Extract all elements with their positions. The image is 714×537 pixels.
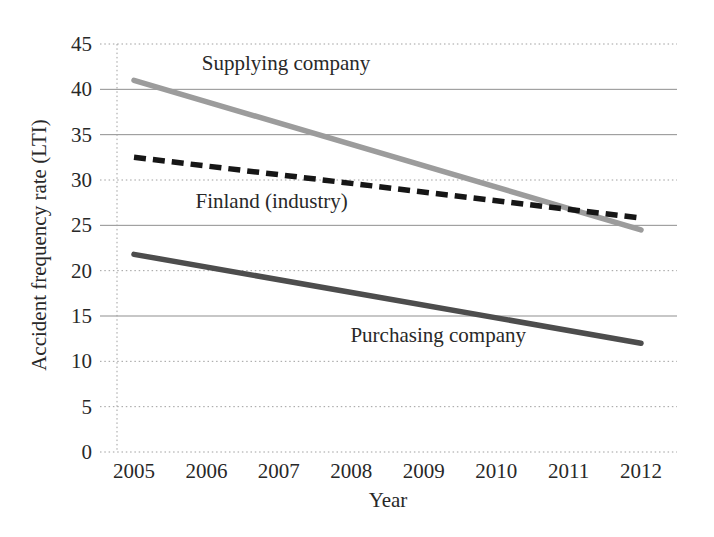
y-axis-title: Accident frequency rate (LTI) (27, 119, 51, 371)
y-tick-label: 45 (71, 32, 92, 56)
y-tick-label: 20 (71, 259, 92, 283)
x-tick-label: 2008 (330, 459, 372, 483)
y-tick-label: 25 (71, 213, 92, 237)
x-axis-title: Year (369, 488, 408, 512)
y-tick-label: 30 (71, 168, 92, 192)
x-tick-label: 2007 (258, 459, 300, 483)
x-tick-label: 2009 (403, 459, 445, 483)
y-tick-label: 5 (82, 395, 93, 419)
series-label-supplying-company: Supplying company (202, 51, 371, 75)
chart-figure: 0510152025303540452005200620072008200920… (0, 0, 714, 537)
x-tick-label: 2005 (113, 459, 155, 483)
y-tick-label: 10 (71, 349, 92, 373)
accident-frequency-line-chart: 0510152025303540452005200620072008200920… (0, 0, 714, 537)
x-tick-label: 2011 (548, 459, 589, 483)
y-tick-label: 35 (71, 123, 92, 147)
y-tick-label: 0 (82, 440, 93, 464)
series-label-finland-industry-: Finland (industry) (195, 189, 347, 213)
series-label-purchasing-company: Purchasing company (350, 323, 526, 347)
x-tick-label: 2012 (620, 459, 662, 483)
x-tick-label: 2006 (185, 459, 227, 483)
y-tick-label: 40 (71, 77, 92, 101)
y-tick-label: 15 (71, 304, 92, 328)
x-tick-label: 2010 (475, 459, 517, 483)
